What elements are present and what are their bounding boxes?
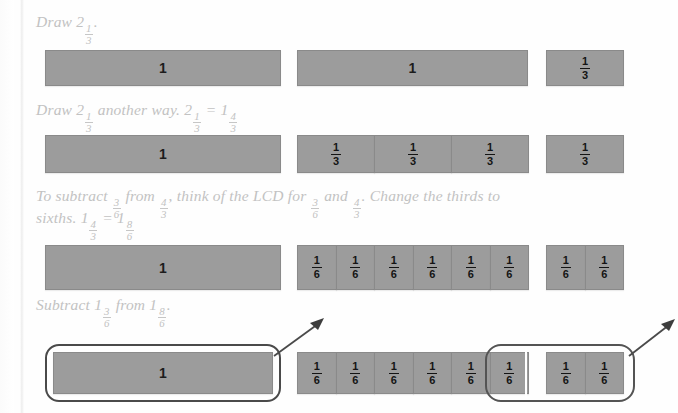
cell-fraction: 16 (599, 361, 609, 386)
text-segment: and (324, 187, 348, 204)
bar-label: 1 (46, 246, 280, 289)
cell-fraction: 16 (466, 361, 476, 386)
numerator: 1 (193, 111, 201, 122)
denominator: 6 (312, 373, 322, 386)
fraction-cell: 13 (374, 135, 452, 173)
denominator: 3 (160, 208, 168, 220)
row-3-caption-line-2: sixths. 143 = 186 (36, 208, 134, 242)
text-segment: Subtract (36, 296, 90, 313)
row-1-caption: Draw 213. (36, 12, 98, 46)
fraction-cell: 13 (546, 135, 624, 173)
row-3-whole-bar-1: 1 (45, 245, 281, 290)
numerator: 8 (126, 219, 134, 230)
fraction-cell: 13 (297, 135, 375, 173)
numerator: 1 (389, 361, 399, 373)
cell-fraction: 16 (350, 255, 360, 280)
caption-fraction: 86 (158, 306, 166, 330)
row-2-caption-fraction-1: 13 (85, 111, 93, 135)
numerator: 1 (350, 255, 360, 267)
whole-part: 1 (94, 296, 102, 313)
fraction-cell: 16 (297, 245, 337, 290)
numerator: 1 (580, 142, 590, 154)
row-3-part-group-2: 1616 (546, 245, 624, 290)
fraction-cell: 16 (336, 245, 376, 290)
text-segment: . (167, 296, 171, 313)
numerator: 1 (389, 255, 399, 267)
numerator: 1 (427, 361, 437, 373)
cell-fraction: 16 (561, 255, 571, 280)
caption-fraction: 86 (126, 219, 134, 243)
denominator: 3 (580, 154, 590, 167)
denominator: 6 (312, 267, 322, 280)
denominator: 6 (599, 373, 609, 386)
numerator: 1 (85, 23, 93, 34)
numerator: 1 (312, 361, 322, 373)
numerator: 1 (599, 361, 609, 373)
cell-fraction: 16 (427, 255, 437, 280)
bar-label: 1 (54, 353, 272, 393)
fraction-cell: 16 (374, 245, 414, 290)
page-gutter-line (20, 0, 24, 413)
denominator: 6 (389, 267, 399, 280)
cell-fraction: 16 (466, 255, 476, 280)
cell-fraction: 16 (504, 255, 514, 280)
row-2-caption-prefix: Draw 2 (36, 101, 84, 118)
row-2-caption-middle: another way. 2 (98, 101, 193, 118)
bar-label: 1 (46, 136, 280, 172)
numerator: 1 (561, 255, 571, 267)
fraction-cell: 16 (451, 352, 491, 394)
denominator: 3 (408, 154, 418, 167)
fraction-cell: 16 (374, 352, 414, 394)
row-4-whole-bar-1: 1 (53, 352, 273, 394)
numerator: 1 (561, 361, 571, 373)
numerator: 3 (311, 197, 319, 208)
fraction-cell: 16 (451, 245, 491, 290)
row-2-part-group-1: 13 13 13 (297, 135, 529, 173)
numerator: 4 (353, 197, 361, 208)
numerator: 1 (408, 142, 418, 154)
denominator: 6 (427, 373, 437, 386)
row-3-part-group-1: 161616161616 (297, 245, 529, 290)
row-2-caption-fraction-2: 13 (193, 111, 201, 135)
denominator: 3 (193, 122, 201, 134)
numerator: 1 (331, 142, 341, 154)
text-segment: sixths. (36, 209, 77, 226)
denominator: 3 (580, 68, 590, 81)
cell-fraction: 13 (580, 142, 590, 167)
bar-label: 1 (298, 51, 527, 85)
cell-fraction: 16 (350, 361, 360, 386)
arrow-to-whole-bar (270, 316, 330, 361)
fraction-cell: 16 (546, 352, 586, 394)
denominator: 3 (485, 154, 495, 167)
denominator: 6 (103, 317, 111, 329)
fraction-cell: 16 (336, 352, 376, 394)
page-gutter-shadow (0, 0, 14, 413)
numerator: 3 (113, 197, 121, 208)
numerator: 1 (427, 255, 437, 267)
row-2-caption-whole: 1 (221, 101, 229, 118)
numerator: 4 (160, 197, 168, 208)
fraction-cell: 16 (585, 352, 625, 394)
row-4-part-group-2: 1616 (546, 352, 624, 394)
fraction-cell: 16 (490, 245, 530, 290)
numerator: 1 (466, 361, 476, 373)
text-segment: from (116, 296, 146, 313)
numerator: 1 (350, 361, 360, 373)
cell-fraction: 16 (389, 255, 399, 280)
whole-part: 1 (117, 209, 125, 226)
row-2-caption-equals: = (206, 101, 217, 118)
row-4-caption: Subtract 136 from 186. (36, 295, 171, 329)
text-segment: . Change the thirds to (362, 187, 501, 204)
cell-fraction: 1 3 (580, 56, 590, 81)
denominator: 6 (311, 208, 319, 220)
caption-fraction: 43 (353, 197, 361, 221)
numerator: 1 (85, 111, 93, 122)
denominator: 3 (353, 208, 361, 220)
text-segment: from (126, 187, 156, 204)
cell-fraction: 13 (331, 142, 341, 167)
numerator: 1 (580, 56, 590, 68)
row-1-caption-fraction: 13 (85, 23, 93, 47)
row-2-caption: Draw 213 another way. 213 = 143 (36, 100, 238, 134)
denominator: 6 (427, 267, 437, 280)
denominator: 6 (466, 373, 476, 386)
